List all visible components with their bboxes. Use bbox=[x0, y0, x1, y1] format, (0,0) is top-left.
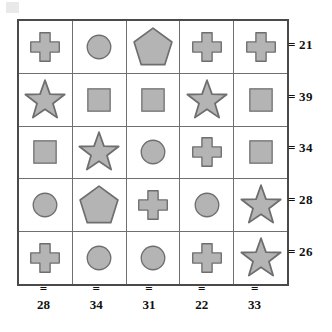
grid-cell-r4c1[interactable] bbox=[18, 179, 72, 232]
grid-cell-r3c5[interactable] bbox=[234, 126, 288, 179]
column-sum-2: =34 bbox=[70, 283, 123, 327]
grid-row bbox=[18, 73, 288, 126]
equals-sign: = bbox=[288, 140, 296, 156]
column-sum-value: 22 bbox=[195, 297, 208, 312]
square-shape bbox=[19, 127, 72, 179]
cross-shape bbox=[234, 21, 287, 73]
grid-cell-r2c5[interactable] bbox=[234, 73, 288, 126]
star-shape bbox=[73, 127, 126, 179]
grid-cell-r4c4[interactable] bbox=[180, 179, 234, 232]
equals-sign: = bbox=[251, 283, 258, 294]
row-sum-value: 21 bbox=[299, 37, 313, 53]
row-sums-column: =21=39=34=28=26 bbox=[288, 19, 332, 278]
circle-shape bbox=[127, 127, 180, 179]
cross-shape bbox=[127, 179, 180, 231]
equals-sign: = bbox=[40, 283, 47, 294]
square-shape bbox=[234, 127, 287, 179]
grid-cell-r5c3[interactable] bbox=[126, 232, 180, 285]
row-sum-4: =28 bbox=[288, 174, 332, 226]
grid-row bbox=[18, 20, 288, 73]
circle-shape bbox=[73, 21, 126, 73]
grid-cell-r5c4[interactable] bbox=[180, 232, 234, 285]
star-shape bbox=[19, 74, 72, 126]
column-sum-value: 34 bbox=[90, 297, 103, 312]
grid-cell-r4c3[interactable] bbox=[126, 179, 180, 232]
row-sum-value: 39 bbox=[299, 89, 313, 105]
equals-sign: = bbox=[288, 89, 296, 105]
column-sum-1: =28 bbox=[17, 283, 70, 327]
row-sum-1: =21 bbox=[288, 19, 332, 71]
grid-row bbox=[18, 126, 288, 179]
equals-sign: = bbox=[198, 283, 205, 294]
cross-shape bbox=[180, 232, 233, 284]
grid-cell-r1c4[interactable] bbox=[180, 20, 234, 73]
row-sum-value: 28 bbox=[299, 192, 313, 208]
column-sum-5: =33 bbox=[228, 283, 281, 327]
star-shape bbox=[234, 179, 287, 231]
row-sum-2: =39 bbox=[288, 71, 332, 123]
equals-sign: = bbox=[288, 244, 296, 260]
grid-cell-r1c1[interactable] bbox=[18, 20, 72, 73]
grid-cell-r2c4[interactable] bbox=[180, 73, 234, 126]
column-sum-value: 31 bbox=[142, 297, 155, 312]
circle-shape bbox=[127, 232, 180, 284]
square-shape bbox=[127, 74, 180, 126]
row-sum-3: =34 bbox=[288, 123, 332, 175]
column-sums-row: =28=34=31=22=33 bbox=[17, 283, 281, 327]
grid-cell-r3c4[interactable] bbox=[180, 126, 234, 179]
grid-cell-r5c1[interactable] bbox=[18, 232, 72, 285]
puzzle-grid-container bbox=[17, 19, 281, 278]
star-shape bbox=[180, 74, 233, 126]
row-sum-5: =26 bbox=[288, 226, 332, 278]
grid-cell-r2c1[interactable] bbox=[18, 73, 72, 126]
column-sum-4: =22 bbox=[175, 283, 228, 327]
puzzle-grid bbox=[17, 19, 289, 286]
grid-cell-r2c3[interactable] bbox=[126, 73, 180, 126]
pentagon-shape bbox=[127, 21, 180, 73]
shape-sum-puzzle: =21=39=34=28=26 =28=34=31=22=33 bbox=[0, 0, 332, 332]
row-sum-value: 26 bbox=[299, 244, 313, 260]
grid-cell-r5c5[interactable] bbox=[234, 232, 288, 285]
cross-shape bbox=[19, 21, 72, 73]
star-shape bbox=[234, 232, 287, 284]
column-sum-value: 28 bbox=[37, 297, 50, 312]
grid-cell-r4c2[interactable] bbox=[72, 179, 126, 232]
equals-sign: = bbox=[145, 283, 152, 294]
grid-cell-r3c3[interactable] bbox=[126, 126, 180, 179]
grid-cell-r1c3[interactable] bbox=[126, 20, 180, 73]
circle-shape bbox=[73, 232, 126, 284]
grid-cell-r3c1[interactable] bbox=[18, 126, 72, 179]
equals-sign: = bbox=[288, 37, 296, 53]
scan-artifact bbox=[6, 2, 19, 13]
grid-cell-r1c5[interactable] bbox=[234, 20, 288, 73]
equals-sign: = bbox=[288, 192, 296, 208]
grid-cell-r4c5[interactable] bbox=[234, 179, 288, 232]
grid-row bbox=[18, 232, 288, 285]
grid-cell-r1c2[interactable] bbox=[72, 20, 126, 73]
grid-cell-r2c2[interactable] bbox=[72, 73, 126, 126]
grid-cell-r3c2[interactable] bbox=[72, 126, 126, 179]
square-shape bbox=[234, 74, 287, 126]
cross-shape bbox=[180, 127, 233, 179]
circle-shape bbox=[19, 179, 72, 231]
pentagon-shape bbox=[73, 179, 126, 231]
column-sum-value: 33 bbox=[248, 297, 261, 312]
grid-row bbox=[18, 179, 288, 232]
row-sum-value: 34 bbox=[299, 140, 313, 156]
cross-shape bbox=[180, 21, 233, 73]
square-shape bbox=[73, 74, 126, 126]
grid-cell-r5c2[interactable] bbox=[72, 232, 126, 285]
column-sum-3: =31 bbox=[123, 283, 176, 327]
circle-shape bbox=[180, 179, 233, 231]
cross-shape bbox=[19, 232, 72, 284]
equals-sign: = bbox=[92, 283, 99, 294]
